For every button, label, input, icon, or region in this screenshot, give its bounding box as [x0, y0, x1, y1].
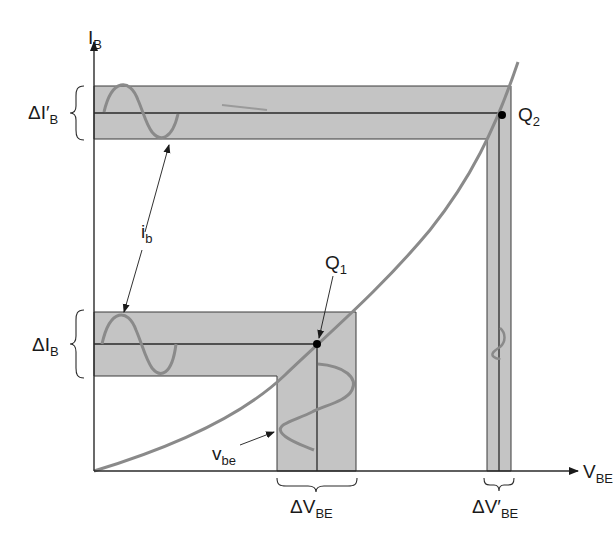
q1-label: Q1	[325, 253, 347, 276]
delta-vbe-brace	[277, 478, 357, 492]
q1-point	[313, 340, 321, 348]
vbe-pointer-arrow	[240, 432, 274, 445]
delta-ib-prime-label: ΔI′B	[28, 103, 58, 126]
delta-ib-brace	[70, 310, 84, 378]
vbe-signal-label: vbe	[212, 444, 236, 467]
y-axis-label: IB	[88, 28, 102, 51]
delta-ib-label: ΔIB	[32, 335, 59, 358]
q2-point	[498, 111, 506, 119]
x-axis-label: VBE	[583, 462, 613, 485]
transistor-input-characteristic-diagram	[0, 0, 614, 537]
ib-arrow-up	[145, 145, 169, 232]
q2-label: Q2	[518, 105, 540, 128]
delta-ib-prime-brace	[70, 86, 84, 140]
ib-arrow-down	[124, 250, 142, 312]
delta-vbe-label: ΔVBE	[290, 497, 333, 520]
delta-vbe-prime-label: ΔV′BE	[472, 497, 518, 520]
ib-signal-label: ib	[141, 222, 152, 245]
delta-vbe-prime-brace	[484, 478, 514, 491]
